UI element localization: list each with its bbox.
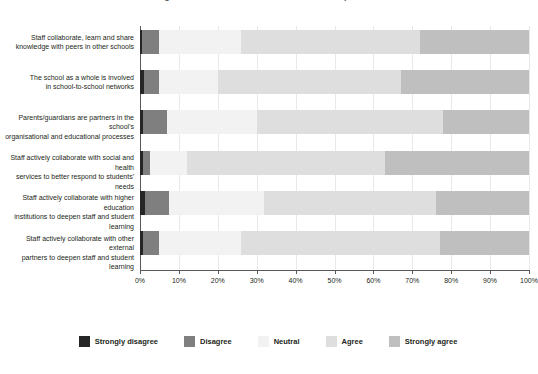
- category-label-line: in school-to-school networks: [0, 82, 134, 92]
- x-tick-mark: [296, 271, 297, 274]
- category-label: Staff actively collaborate with other ex…: [0, 234, 134, 272]
- category-label-line: services to better respond to students' …: [0, 172, 134, 191]
- bar-segment-neutral: [159, 231, 241, 255]
- bar-segment-agree: [264, 191, 435, 215]
- category-label-line: knowledge with peers in other schools: [0, 42, 134, 52]
- category-label-line: Parents/guardians are partners in the sc…: [0, 113, 134, 132]
- bar-segment-neutral: [150, 151, 187, 175]
- category-label: Staff actively collaborate with social a…: [0, 153, 134, 191]
- category-label: The school as a whole is involvedin scho…: [0, 73, 134, 92]
- x-tick-label: 40%: [289, 277, 303, 284]
- x-tick-mark: [451, 271, 452, 274]
- legend-swatch-icon: [79, 336, 90, 347]
- category-label: Staff actively collaborate with higher e…: [0, 193, 134, 231]
- x-tick-label: 0%: [135, 277, 145, 284]
- legend-item[interactable]: Agree: [326, 336, 363, 347]
- x-tick-label: 10%: [172, 277, 186, 284]
- bar-segment-disagree: [143, 151, 150, 175]
- gridline: [529, 26, 530, 270]
- bar-segment-agree: [257, 110, 444, 134]
- legend-swatch-icon: [258, 336, 269, 347]
- category-label-line: Staff collaborate, learn and share: [0, 33, 134, 43]
- x-tick-mark: [373, 271, 374, 274]
- bar-row: [140, 231, 529, 255]
- legend-swatch-icon: [326, 336, 337, 347]
- bar-segment-strongly-agree: [420, 30, 529, 54]
- bar-segment-agree: [241, 30, 420, 54]
- x-tick-label: 70%: [405, 277, 419, 284]
- bar-row: [140, 30, 529, 54]
- category-label: Staff collaborate, learn and shareknowle…: [0, 33, 134, 52]
- bar-segment-neutral: [159, 70, 217, 94]
- x-tick-mark: [412, 271, 413, 274]
- x-tick-label: 90%: [483, 277, 497, 284]
- chart-title: Figure 1. School collaboration with exte…: [0, 0, 536, 3]
- x-tick-label: 30%: [250, 277, 264, 284]
- legend-label: Strongly agree: [405, 337, 458, 346]
- legend-label: Disagree: [200, 337, 232, 346]
- category-label-line: The school as a whole is involved: [0, 73, 134, 83]
- category-label-line: organisational and educational processes: [0, 132, 134, 142]
- bar-segment-disagree: [143, 110, 167, 134]
- category-label: Parents/guardians are partners in the sc…: [0, 113, 134, 142]
- category-label-line: partners to deepen staff and student lea…: [0, 253, 134, 272]
- x-tick-mark: [218, 271, 219, 274]
- bar-segment-disagree: [142, 30, 159, 54]
- bar-row: [140, 110, 529, 134]
- legend-item[interactable]: Disagree: [184, 336, 232, 347]
- x-tick-mark: [257, 271, 258, 274]
- x-tick-label: 60%: [366, 277, 380, 284]
- bar-row: [140, 70, 529, 94]
- category-label-line: Staff actively collaborate with higher e…: [0, 193, 134, 212]
- bar-segment-strongly-agree: [443, 110, 529, 134]
- chart-legend: Strongly disagreeDisagreeNeutralAgreeStr…: [0, 336, 536, 347]
- bar-row: [140, 151, 529, 175]
- x-tick-label: 100%: [520, 277, 538, 284]
- x-tick-mark: [490, 271, 491, 274]
- category-label-line: institutions to deepen staff and student…: [0, 212, 134, 231]
- legend-item[interactable]: Neutral: [258, 336, 300, 347]
- category-label-line: Staff actively collaborate with social a…: [0, 153, 134, 172]
- bar-segment-strongly-agree: [385, 151, 529, 175]
- bar-segment-agree: [241, 231, 439, 255]
- x-tick-mark: [335, 271, 336, 274]
- x-tick-mark: [179, 271, 180, 274]
- legend-label: Agree: [342, 337, 363, 346]
- bar-segment-neutral: [167, 110, 256, 134]
- bar-segment-disagree: [145, 191, 170, 215]
- bar-segment-neutral: [169, 191, 264, 215]
- x-tick-label: 50%: [327, 277, 341, 284]
- bar-segment-agree: [187, 151, 385, 175]
- bar-segment-agree: [218, 70, 401, 94]
- x-tick-mark: [140, 271, 141, 274]
- bar-segment-strongly-agree: [401, 70, 529, 94]
- legend-label: Strongly disagree: [95, 337, 158, 346]
- legend-item[interactable]: Strongly disagree: [79, 336, 158, 347]
- bar-segment-strongly-agree: [436, 191, 529, 215]
- bar-row: [140, 191, 529, 215]
- legend-swatch-icon: [184, 336, 195, 347]
- bar-segment-strongly-agree: [440, 231, 529, 255]
- legend-item[interactable]: Strongly agree: [389, 336, 458, 347]
- category-label-line: Staff actively collaborate with other ex…: [0, 234, 134, 253]
- x-tick-mark: [529, 271, 530, 274]
- bar-segment-disagree: [143, 231, 159, 255]
- x-tick-label: 20%: [211, 277, 225, 284]
- bar-segment-disagree: [144, 70, 160, 94]
- legend-swatch-icon: [389, 336, 400, 347]
- x-tick-label: 80%: [444, 277, 458, 284]
- bar-segment-neutral: [159, 30, 241, 54]
- legend-label: Neutral: [274, 337, 300, 346]
- plot-area: [140, 26, 529, 270]
